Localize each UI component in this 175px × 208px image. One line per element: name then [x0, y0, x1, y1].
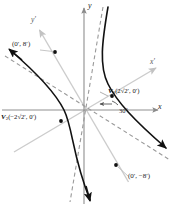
vertex-1-point	[110, 94, 114, 98]
covertex-lower-point	[114, 163, 118, 167]
figure-canvas	[0, 0, 175, 208]
hyperbola-branch-2	[9, 49, 90, 201]
leader-vertex-1	[100, 92, 108, 96]
covertex-upper-point	[53, 50, 57, 54]
leader-lower-covertex	[118, 167, 128, 176]
vertex-2-point	[59, 119, 63, 123]
hyperbola-figure: x y x′ y′ (0′, 8′) (0′, −8′) V1(2√2′, 0′…	[0, 0, 175, 208]
asymptote-steep	[70, 7, 103, 202]
angle-indicator	[100, 101, 118, 105]
